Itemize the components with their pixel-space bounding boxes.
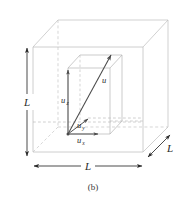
outer-cube [33,20,168,152]
vector-u-label: u [102,75,106,85]
component-ux-label-base: u [77,135,81,145]
component-uz-label-sub: z [65,100,69,106]
component-ux-label-sub: x [81,140,85,146]
component-ux-label: u x [77,135,85,146]
dimension-width: L [34,158,142,174]
outer-cube-hidden-edges [58,20,168,127]
dimension-height: L [20,48,34,156]
dimension-width-label: L [84,160,91,172]
component-uz-label-base: u [61,95,65,105]
outer-cube-depth-edge-hidden [33,127,58,152]
outer-cube-back-face [58,20,168,127]
cube-vector-diagram: L L L u u z u y [0,0,187,203]
component-uy-label-base: u [77,120,81,130]
projection-guides [33,118,143,122]
vector-origin-dot [67,133,70,136]
figure-caption: (b) [88,182,99,192]
component-uy-label-sub: y [81,125,85,131]
outer-cube-front-face [33,47,143,152]
figure-container: L L L u u z u y [0,0,187,203]
dimension-depth: L [148,135,173,157]
dimension-depth-label: L [166,142,173,154]
dimension-height-label: L [23,96,30,108]
